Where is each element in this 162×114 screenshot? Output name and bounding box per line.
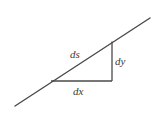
dy-label: dy	[115, 55, 126, 67]
dx-label: dx	[73, 85, 84, 97]
arc-length-diagram: ds dy dx	[0, 0, 162, 114]
ds-label: ds	[70, 48, 80, 60]
